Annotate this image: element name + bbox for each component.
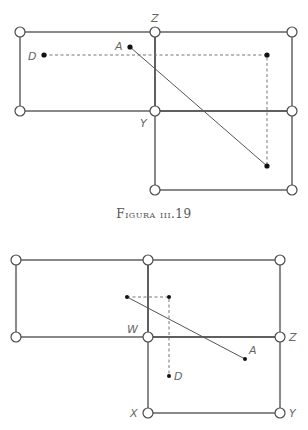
- point-end: [264, 163, 269, 168]
- label-y: Y: [140, 117, 148, 130]
- top-right-panel: [155, 32, 292, 111]
- figure-1: Z Y A D: [15, 12, 297, 195]
- label-x: X: [129, 407, 138, 420]
- point-d: [167, 374, 171, 378]
- point-a: [127, 44, 132, 49]
- point-corner: [167, 295, 171, 299]
- point-a: [243, 357, 247, 361]
- figure-2: W Z A D X Y: [11, 255, 297, 420]
- point-corner: [264, 52, 269, 57]
- label-z: Z: [288, 331, 297, 344]
- point-d: [41, 52, 46, 57]
- bottom-right-panel: [155, 111, 292, 190]
- label-a: A: [248, 344, 257, 357]
- figure-caption: Figura iii.19: [0, 207, 308, 221]
- label-a: A: [114, 40, 123, 53]
- label-y: Y: [289, 407, 297, 420]
- label-w: W: [127, 323, 139, 336]
- label-d: D: [174, 370, 182, 383]
- label-z: Z: [150, 12, 159, 25]
- point-start: [125, 295, 129, 299]
- label-d: D: [28, 50, 36, 63]
- string-line: [127, 297, 245, 359]
- string-line: [130, 47, 267, 166]
- left-panel: [20, 32, 155, 111]
